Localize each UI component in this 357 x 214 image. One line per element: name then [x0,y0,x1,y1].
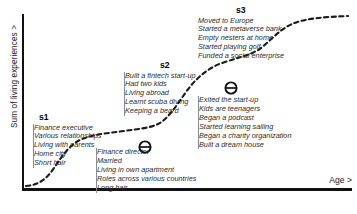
annotation-list-mid: Finance director Married Living in own a… [96,148,196,193]
list-item: Short hair [34,159,101,168]
list-item: Built a dream house [199,141,292,150]
annotation-block-mid: Finance director Married Living in own a… [96,148,196,193]
annotation-title-s2: s2 [126,60,196,70]
annotation-list-right: Exited the start-up Kids are teenagers B… [198,96,292,149]
annotation-block-s2: s2 Built a fintech start-up Had two kids… [124,60,196,116]
annotation-list-s3: Moved to Europe Started a metaverse bank… [198,17,284,62]
annotation-title-s1: s1 [35,112,101,122]
annotation-block-right: Exited the start-up Kids are teenagers B… [198,96,292,149]
annotation-title-s3: s3 [200,5,284,15]
annotation-block-s1: s1 Finance executive Various relationshi… [33,112,101,168]
annotation-list-s2: Built a fintech start-up Had two kids Li… [124,72,196,117]
chart-canvas: Sum of living experiences > Age > s1 Fin… [0,0,357,214]
list-item: Funded a social enterprise [198,52,284,61]
annotation-list-s1: Finance executive Various relationships … [33,124,101,169]
list-item: Long hair [97,184,196,193]
list-item: Keeping a beard [125,107,196,116]
annotation-block-s3: s3 Moved to Europe Started a metaverse b… [198,5,284,61]
